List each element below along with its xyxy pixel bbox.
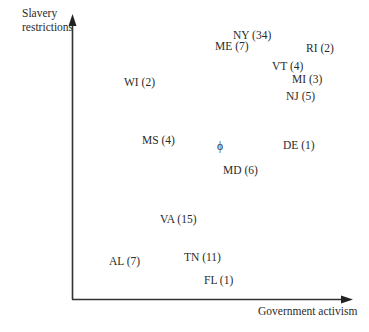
point-label-de: DE (1) [283, 139, 315, 152]
point-label-me: ME (7) [215, 40, 249, 53]
y-axis-label-line2: restrictions [22, 20, 73, 34]
point-label-mi: MI (3) [292, 73, 322, 86]
point-label-ms: MS (4) [142, 134, 175, 147]
point-label-tn: TN (11) [184, 251, 221, 264]
point-label-wi: WI (2) [124, 76, 155, 89]
y-axis-label: Slavery restrictions [22, 6, 73, 34]
point-label-phi: ϕ [217, 140, 223, 153]
point-label-al: AL (7) [109, 255, 140, 268]
y-axis-label-line1: Slavery [22, 6, 73, 20]
point-label-fl: FL (1) [204, 274, 233, 287]
point-label-ri: RI (2) [306, 42, 334, 55]
x-axis-arrow-icon [341, 296, 353, 304]
point-label-vt: VT (4) [272, 60, 303, 73]
point-label-va: VA (15) [160, 213, 197, 226]
x-axis-label: Government activism [258, 304, 357, 318]
scatter-chart: Slavery restrictions Government activism… [0, 0, 369, 332]
point-label-md: MD (6) [223, 164, 258, 177]
point-label-nj: NJ (5) [286, 90, 315, 103]
